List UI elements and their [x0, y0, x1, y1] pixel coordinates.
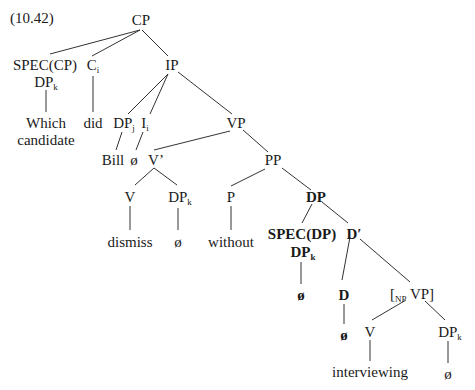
- node-c: Ci: [87, 57, 100, 73]
- node-d-bar: D′: [346, 226, 361, 242]
- word-without: without: [208, 234, 254, 250]
- null-dp-k-gerund-object: ø: [444, 366, 452, 382]
- node-spec-cp: SPEC(CP): [13, 57, 77, 73]
- node-vp: VP: [226, 115, 245, 131]
- null-d: ø: [340, 327, 348, 343]
- node-dp-k-spec-cp: DPk: [34, 74, 58, 90]
- node-dp-j: DPj: [113, 115, 135, 131]
- node-i: Ii: [141, 115, 149, 131]
- node-cp: CP: [132, 12, 150, 28]
- null-i: ø: [130, 152, 138, 168]
- node-v-gerund: V: [365, 324, 376, 340]
- word-which: Which: [26, 115, 66, 131]
- node-p: P: [227, 189, 235, 205]
- syntax-tree-diagram: (10.42) CP SPEC(CP) DPk Which candidate …: [0, 0, 475, 390]
- node-d: D: [339, 287, 350, 303]
- word-interviewing: interviewing: [332, 364, 408, 380]
- example-number: (10.42): [10, 10, 54, 26]
- node-v: V: [125, 189, 136, 205]
- word-dismiss: dismiss: [107, 234, 152, 250]
- word-candidate: candidate: [17, 132, 74, 148]
- node-dp-k-gerund-object: DPk: [438, 324, 462, 340]
- node-ip: IP: [165, 57, 178, 73]
- null-dp-k-object: ø: [174, 234, 182, 250]
- node-pp: PP: [265, 152, 282, 168]
- node-spec-dp: SPEC(DP): [268, 226, 336, 242]
- node-dp-k-object: DPk: [168, 189, 192, 205]
- node-v-bar: V’: [148, 152, 164, 168]
- word-bill: Bill: [102, 152, 125, 168]
- node-dp-k-spec-dp: DPk: [290, 244, 315, 260]
- null-spec-dp: ø: [297, 287, 305, 303]
- node-dp: DP: [306, 189, 326, 205]
- node-np-vp: [NP VP]: [390, 286, 434, 307]
- word-did: did: [83, 115, 102, 131]
